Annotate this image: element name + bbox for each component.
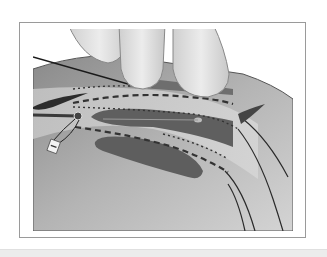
bottom-band xyxy=(0,249,327,257)
surgical-illustration xyxy=(33,29,293,231)
